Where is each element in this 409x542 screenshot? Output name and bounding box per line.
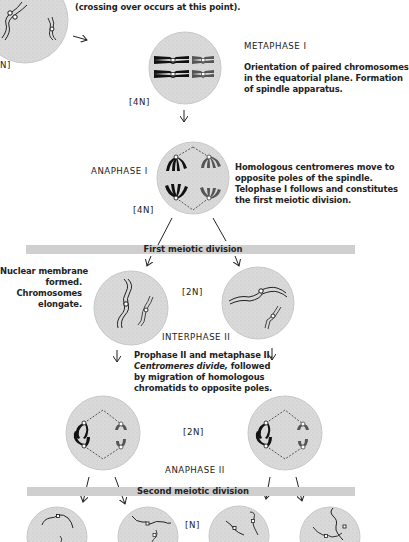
anaphase-ii-left-cell bbox=[66, 396, 140, 470]
final-ploidy-label: [N] bbox=[185, 520, 200, 530]
prophase-ii-desc-line: by migration of homologous bbox=[134, 372, 273, 383]
interphase-note-line: Nuclear membrane bbox=[0, 266, 82, 277]
anaphase-i-desc-line: opposite poles of the spindle. bbox=[235, 173, 398, 184]
metaphase-i-desc-line: Orientation of paired chromosomes bbox=[244, 62, 409, 73]
metaphase-i-desc-line: in the equatorial plane. Formation bbox=[244, 73, 409, 84]
second-meiotic-division-label: Second meiotic division bbox=[137, 487, 249, 496]
anaphase-ii-right-cell bbox=[248, 396, 322, 470]
arrow-icon bbox=[73, 36, 87, 40]
haploid-cell-2 bbox=[118, 507, 178, 542]
metaphase-i-cell bbox=[149, 32, 221, 104]
centromeres-divide-emphasis: Centromeres divide, bbox=[134, 361, 228, 371]
interphase-ii-right-cell bbox=[222, 267, 294, 339]
haploid-cell-3 bbox=[209, 506, 269, 542]
first-meiotic-division-label: First meiotic division bbox=[143, 245, 242, 254]
metaphase-i-ploidy-label: [4N] bbox=[129, 97, 150, 107]
anaphase-i-title: ANAPHASE I bbox=[91, 166, 148, 176]
anaphase-ii-ploidy-label: [2N] bbox=[183, 427, 204, 437]
arrow-icon bbox=[147, 256, 151, 266]
metaphase-i-description: Orientation of paired chromosomes in the… bbox=[244, 62, 409, 95]
prophase-ii-desc-fragment: followed bbox=[228, 361, 270, 371]
prophase-ii-description: Prophase II and metaphase II. Centromere… bbox=[134, 350, 273, 394]
metaphase-i-title: METAPHASE I bbox=[244, 41, 306, 51]
anaphase-i-desc-line: Homologous centromeres move to bbox=[235, 162, 398, 173]
interphase-note-line: Chromosomes bbox=[0, 288, 82, 299]
anaphase-i-ploidy-label: [4N] bbox=[133, 205, 154, 215]
interphase-ii-left-note: Nuclear membrane formed. Chromosomes elo… bbox=[0, 266, 82, 310]
anaphase-i-desc-line: the first meiotic division. bbox=[235, 195, 398, 206]
prophase-ii-desc-line: Prophase II and metaphase II. bbox=[134, 350, 273, 361]
anaphase-ii-title: ANAPHASE II bbox=[165, 465, 225, 475]
arrow-icon bbox=[235, 256, 239, 266]
interphase-ii-left-cell bbox=[94, 271, 168, 345]
prophase-cell bbox=[0, 0, 68, 63]
interphase-note-line: elongate. bbox=[0, 299, 82, 310]
crossing-over-caption: (crossing over occurs at this point). bbox=[75, 2, 240, 13]
metaphase-i-desc-line: of spindle apparatus. bbox=[244, 84, 409, 95]
haploid-cell-1 bbox=[27, 507, 87, 542]
haploid-cell-4 bbox=[300, 507, 360, 542]
prophase-ploidy-label: N] bbox=[0, 60, 11, 70]
prophase-ii-desc-line: chromatids to opposite poles. bbox=[134, 383, 273, 394]
anaphase-i-description: Homologous centromeres move to opposite … bbox=[235, 162, 398, 206]
interphase-ii-ploidy-label: [2N] bbox=[182, 287, 203, 297]
interphase-note-line: formed. bbox=[0, 277, 82, 288]
interphase-ii-title: INTERPHASE II bbox=[162, 332, 230, 342]
anaphase-i-desc-line: Telophase I follows and constitutes bbox=[235, 184, 398, 195]
anaphase-i-cell bbox=[157, 142, 229, 214]
